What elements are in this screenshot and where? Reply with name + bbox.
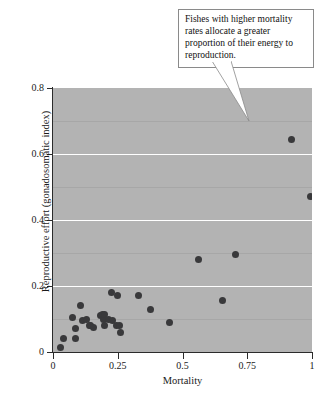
data-point [147,306,154,313]
data-point [60,335,67,342]
data-point [195,256,202,263]
data-point [117,329,124,336]
data-point [307,193,312,200]
data-point [219,297,226,304]
data-point [69,314,76,321]
data-point [57,344,64,351]
data-point [288,136,295,143]
data-point [114,292,121,299]
data-point [232,251,239,258]
data-point [72,335,79,342]
gridline-major [53,220,312,221]
data-point [72,325,79,332]
annotation-callout-tail [212,61,252,124]
x-axis-tick-label: 0 [33,361,73,371]
gridline-minor [53,319,312,320]
x-axis-tick-label: 0.75 [227,361,267,371]
x-axis-tick [53,353,54,359]
data-point [90,324,97,331]
x-axis-tick-label: 0.5 [163,361,203,371]
y-axis-label: Reproductive effort (gonadosomatic index… [40,87,51,317]
x-axis-tick [183,353,184,359]
annotation-callout: Fishes with higher mortality rates alloc… [178,9,314,68]
gridline-major [53,154,312,155]
gridline-minor [53,121,312,122]
y-axis-tick-label: 0 [39,347,44,357]
data-point [101,322,108,329]
gridline-minor [53,253,312,254]
data-point [77,302,84,309]
x-axis-tick [247,353,248,359]
plot-area [53,88,312,352]
x-axis-tick [312,353,313,359]
gridline-major [53,286,312,287]
data-point [166,319,173,326]
data-point [135,292,142,299]
scatter-plot-figure: 00.20.40.60.8 00.250.50.751 Mortality Re… [0,0,324,398]
gridline-minor [53,187,312,188]
x-axis-label: Mortality [53,375,312,386]
data-point [116,322,123,329]
x-axis-tick-label: 1 [292,361,324,371]
x-axis-tick-label: 0.25 [98,361,138,371]
x-axis-tick [118,353,119,359]
